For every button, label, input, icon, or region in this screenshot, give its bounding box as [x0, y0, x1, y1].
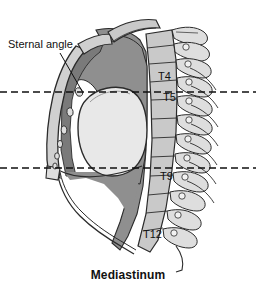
label-vertebra-t4: T4 — [158, 70, 171, 82]
mediastinum-sagittal-diagram: Sternal angle T4 T5 T9 T12 — [0, 0, 256, 292]
costal-facet — [184, 155, 190, 161]
costal-notch — [55, 153, 60, 159]
costal-notch — [57, 140, 62, 147]
label-vertebra-t12: T12 — [143, 228, 162, 240]
costal-facet — [175, 212, 181, 218]
anatomical-figure: Sternal angle T4 T5 T9 T12 Mediastinum — [0, 0, 256, 292]
costal-facet — [186, 79, 192, 85]
costal-facet — [185, 136, 191, 142]
figure-caption: Mediastinum — [0, 268, 256, 282]
costal-facet — [182, 174, 188, 180]
costal-facet — [171, 230, 177, 236]
label-sternal-angle: Sternal angle — [8, 38, 73, 50]
costal-facet — [186, 117, 192, 123]
costal-facet — [183, 44, 189, 50]
costal-facet — [186, 98, 192, 104]
label-vertebra-t5: T5 — [163, 91, 176, 103]
heart-outline — [78, 87, 147, 176]
costal-notch — [61, 126, 68, 135]
costal-facet — [179, 193, 185, 199]
label-vertebra-t9: T9 — [160, 170, 173, 182]
costal-facet — [185, 61, 191, 67]
pericardium-heart — [78, 87, 147, 176]
